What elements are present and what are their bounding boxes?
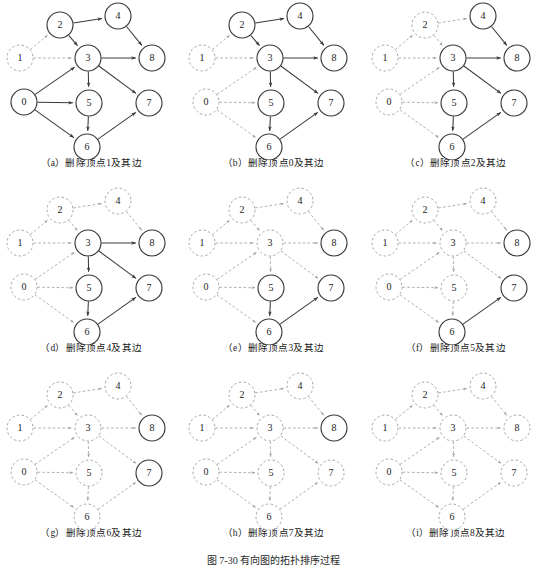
graph-node-4: 4 bbox=[105, 373, 131, 399]
node-label-6: 6 bbox=[267, 141, 272, 152]
node-label-0: 0 bbox=[386, 466, 391, 477]
edge-3-to-7 bbox=[281, 66, 318, 93]
edge-2-to-4 bbox=[438, 388, 467, 392]
edge-5-to-6 bbox=[270, 301, 271, 315]
edge-layer bbox=[213, 203, 324, 324]
edge-5-to-6 bbox=[88, 301, 89, 315]
graph-canvas-i: 012345678 bbox=[365, 370, 547, 530]
edge-layer bbox=[395, 388, 506, 509]
graph-node-2: 2 bbox=[47, 12, 73, 38]
graph-node-3: 3 bbox=[257, 415, 283, 441]
graph-node-0: 0 bbox=[11, 89, 37, 115]
edge-2-to-4 bbox=[73, 203, 102, 207]
node-label-5: 5 bbox=[87, 467, 92, 478]
graph-node-6: 6 bbox=[439, 504, 465, 530]
edge-2-to-4 bbox=[256, 18, 285, 22]
edge-4-to-8 bbox=[309, 396, 324, 415]
graph-node-1: 1 bbox=[189, 415, 215, 441]
graph-canvas-e: 012345678 bbox=[182, 185, 364, 345]
node-label-2: 2 bbox=[58, 389, 63, 400]
node-label-1: 1 bbox=[200, 237, 205, 248]
graph-node-0: 0 bbox=[376, 89, 402, 115]
edge-5-to-6 bbox=[88, 486, 89, 500]
edge-4-to-8 bbox=[491, 396, 506, 415]
graph-node-7: 7 bbox=[501, 275, 527, 301]
edge-2-to-3 bbox=[251, 405, 260, 415]
graph-panel-h: 012345678（h）删除顶点7及其边 bbox=[182, 370, 364, 555]
node-label-0: 0 bbox=[204, 281, 209, 292]
node-label-0: 0 bbox=[22, 466, 27, 477]
graph-canvas-h: 012345678 bbox=[182, 370, 364, 530]
edge-0-to-3 bbox=[400, 67, 440, 94]
node-label-3: 3 bbox=[450, 422, 455, 433]
graph-node-1: 1 bbox=[372, 230, 398, 256]
graph-node-5: 5 bbox=[76, 275, 102, 301]
graph-node-0: 0 bbox=[376, 274, 402, 300]
node-label-0: 0 bbox=[204, 466, 209, 477]
node-label-2: 2 bbox=[240, 389, 245, 400]
edge-4-to-8 bbox=[491, 26, 506, 45]
edge-2-to-3 bbox=[251, 35, 260, 45]
node-label-8: 8 bbox=[332, 422, 337, 433]
node-label-8: 8 bbox=[150, 52, 155, 63]
edge-4-to-8 bbox=[127, 396, 142, 415]
edge-2-to-3 bbox=[434, 35, 443, 45]
graph-node-3: 3 bbox=[75, 45, 101, 71]
graph-node-1: 1 bbox=[372, 415, 398, 441]
graph-panel-c: 012345678（c）删除顶点2及其边 bbox=[365, 0, 547, 185]
graph-node-1: 1 bbox=[7, 230, 33, 256]
graph-node-7: 7 bbox=[318, 90, 344, 116]
graph-node-4: 4 bbox=[470, 3, 496, 29]
node-label-7: 7 bbox=[329, 467, 334, 478]
edge-2-to-4 bbox=[73, 388, 102, 392]
node-label-4: 4 bbox=[480, 195, 485, 206]
graph-node-5: 5 bbox=[76, 90, 102, 116]
node-label-8: 8 bbox=[514, 52, 519, 63]
node-label-1: 1 bbox=[18, 237, 23, 248]
edge-0-to-5 bbox=[220, 287, 255, 288]
node-label-7: 7 bbox=[147, 97, 152, 108]
edge-1-to-2 bbox=[31, 405, 48, 419]
graph-node-2: 2 bbox=[47, 382, 73, 408]
edge-layer bbox=[31, 388, 142, 509]
edge-0-to-6 bbox=[400, 480, 439, 508]
graph-node-8: 8 bbox=[321, 415, 347, 441]
node-label-7: 7 bbox=[147, 467, 152, 478]
node-label-0: 0 bbox=[386, 96, 391, 107]
figure-caption: 图 7-30 有向图的拓扑排序过程 bbox=[0, 552, 547, 567]
node-label-4: 4 bbox=[116, 380, 121, 391]
edge-4-to-8 bbox=[127, 26, 142, 45]
edge-0-to-3 bbox=[218, 437, 258, 464]
graph-node-0: 0 bbox=[11, 274, 37, 300]
edge-5-to-6 bbox=[453, 116, 454, 130]
graph-node-4: 4 bbox=[105, 3, 131, 29]
graph-node-3: 3 bbox=[257, 45, 283, 71]
edge-6-to-7 bbox=[98, 482, 136, 509]
node-label-6: 6 bbox=[85, 141, 90, 152]
node-layer: 012345678 bbox=[189, 373, 347, 530]
node-label-2: 2 bbox=[240, 19, 245, 30]
edge-0-to-6 bbox=[35, 295, 74, 323]
graph-node-8: 8 bbox=[139, 230, 165, 256]
edge-2-to-3 bbox=[69, 35, 78, 45]
graph-panel-g: 012345678（g）删除顶点6及其边 bbox=[0, 370, 182, 555]
node-label-2: 2 bbox=[422, 389, 427, 400]
edge-6-to-7 bbox=[280, 297, 318, 324]
node-label-5: 5 bbox=[87, 97, 92, 108]
graph-node-7: 7 bbox=[318, 460, 344, 486]
node-label-5: 5 bbox=[269, 282, 274, 293]
node-label-5: 5 bbox=[451, 282, 456, 293]
graph-node-7: 7 bbox=[501, 460, 527, 486]
node-layer: 012345678 bbox=[189, 3, 347, 160]
node-label-1: 1 bbox=[18, 52, 23, 63]
figure-panel-grid: 012345678（a）删除顶点1及其边012345678（b）删除顶点0及其边… bbox=[0, 0, 547, 555]
graph-node-6: 6 bbox=[439, 319, 465, 345]
graph-node-4: 4 bbox=[287, 188, 313, 214]
graph-node-7: 7 bbox=[136, 275, 162, 301]
graph-node-1: 1 bbox=[189, 230, 215, 256]
node-label-0: 0 bbox=[22, 281, 27, 292]
edge-3-to-7 bbox=[99, 436, 136, 463]
node-label-8: 8 bbox=[150, 422, 155, 433]
edge-3-to-7 bbox=[464, 436, 501, 463]
edge-1-to-2 bbox=[395, 220, 412, 234]
